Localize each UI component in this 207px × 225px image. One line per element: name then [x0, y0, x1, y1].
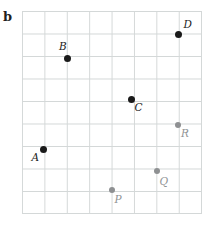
point-label-B: B [59, 41, 67, 52]
point-dot-A [40, 146, 47, 153]
point-label-A: A [32, 152, 40, 163]
point-label-R: R [181, 128, 189, 139]
grid [22, 11, 202, 215]
figure-panel-b: b ABCDPQR [0, 0, 207, 225]
point-dot-B [64, 55, 71, 62]
point-label-Q: Q [160, 176, 169, 187]
point-dot-P [109, 187, 115, 193]
point-dot-D [175, 31, 182, 38]
point-label-P: P [115, 194, 122, 205]
point-dot-Q [154, 168, 160, 174]
figure-part-label: b [3, 10, 12, 23]
point-label-D: D [184, 19, 192, 30]
point-label-C: C [135, 102, 143, 113]
